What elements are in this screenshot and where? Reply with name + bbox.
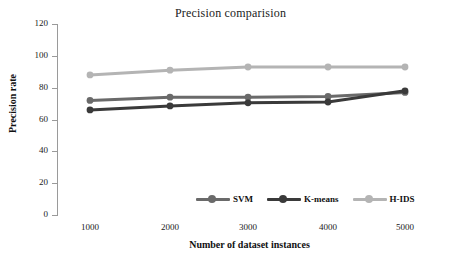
- series-marker-svm: [167, 94, 174, 101]
- series-plot: [0, 0, 461, 261]
- series-marker-h-ids: [245, 64, 252, 71]
- legend-label: SVM: [233, 194, 253, 204]
- series-marker-h-ids: [325, 64, 332, 71]
- legend-swatch-icon: [196, 194, 230, 204]
- series-marker-k-means: [325, 99, 332, 106]
- series-marker-h-ids: [167, 67, 174, 74]
- chart-legend: SVMK-meansH-IDS: [196, 194, 415, 204]
- legend-swatch-icon: [267, 194, 301, 204]
- series-marker-k-means: [87, 107, 94, 114]
- series-marker-k-means: [245, 99, 252, 106]
- legend-item-h-ids[interactable]: H-IDS: [353, 194, 415, 204]
- legend-item-k-means[interactable]: K-means: [267, 194, 339, 204]
- legend-label: K-means: [304, 194, 339, 204]
- series-marker-k-means: [402, 87, 409, 94]
- precision-comparison-chart: Precision comparision 120100806040200 10…: [0, 0, 461, 261]
- series-marker-k-means: [167, 103, 174, 110]
- legend-swatch-icon: [353, 194, 387, 204]
- series-marker-h-ids: [87, 72, 94, 79]
- legend-label: H-IDS: [390, 194, 415, 204]
- legend-item-svm[interactable]: SVM: [196, 194, 253, 204]
- series-marker-h-ids: [402, 64, 409, 71]
- series-marker-svm: [87, 97, 94, 104]
